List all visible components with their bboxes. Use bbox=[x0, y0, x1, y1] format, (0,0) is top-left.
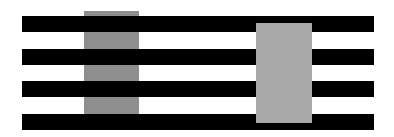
illusion-canvas bbox=[0, 0, 394, 137]
black-bar-3 bbox=[22, 81, 374, 97]
black-bar-1 bbox=[22, 16, 374, 32]
black-bar-2 bbox=[22, 49, 374, 65]
right-gray-patch bbox=[256, 23, 312, 123]
black-bar-4 bbox=[22, 114, 374, 130]
